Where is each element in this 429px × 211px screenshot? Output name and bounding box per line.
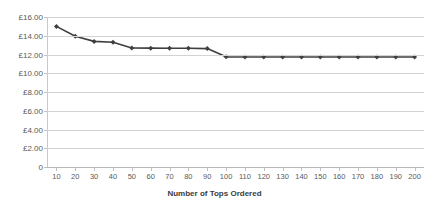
- x-axis-tick: [207, 168, 208, 171]
- y-axis-tick: [44, 167, 47, 168]
- gridline: [47, 55, 424, 56]
- y-axis-tick-label: £2.00: [23, 144, 43, 153]
- x-axis-tick-label: 90: [203, 172, 211, 181]
- x-axis-tick-label: 150: [314, 172, 327, 181]
- y-axis-tick-label: £14.00: [19, 31, 43, 40]
- x-axis-tick-label: 50: [128, 172, 136, 181]
- gridline: [47, 17, 424, 18]
- y-axis-tick-label: £8.00: [23, 88, 43, 97]
- gridline: [47, 111, 424, 112]
- x-axis-tick: [320, 168, 321, 171]
- y-axis-tick: [44, 36, 47, 37]
- y-axis-tick-label: £6.00: [23, 106, 43, 115]
- y-axis-tick-label: £16.00: [19, 13, 43, 22]
- y-axis-tick: [44, 17, 47, 18]
- x-axis-tick: [75, 168, 76, 171]
- x-axis-tick-label: 20: [71, 172, 79, 181]
- x-axis-tick: [358, 168, 359, 171]
- x-axis-tick: [415, 168, 416, 171]
- y-axis-tick: [44, 92, 47, 93]
- x-axis-tick: [301, 168, 302, 171]
- x-axis-tick-label: 10: [52, 172, 60, 181]
- y-axis-tick-label: £4.00: [23, 125, 43, 134]
- x-axis-tick: [245, 168, 246, 171]
- x-axis-tick-label: 200: [408, 172, 421, 181]
- x-axis-tick-label: 60: [147, 172, 155, 181]
- x-axis-tick: [283, 168, 284, 171]
- y-axis-tick-label: £10.00: [19, 69, 43, 78]
- x-axis-tick-label: 130: [276, 172, 289, 181]
- x-axis-tick: [170, 168, 171, 171]
- x-axis-tick-label: 40: [109, 172, 117, 181]
- x-axis-labels: 1020304050607080901001101201301401501601…: [47, 172, 424, 184]
- y-axis-tick-label: 0: [39, 163, 43, 172]
- x-axis-tick: [151, 168, 152, 171]
- x-axis-tick-label: 30: [90, 172, 98, 181]
- x-axis-tick: [264, 168, 265, 171]
- gridline: [47, 73, 424, 74]
- y-axis-tick: [44, 111, 47, 112]
- y-axis-labels: £16.00£14.00£12.00£10.00£8.00£6.00£4.00£…: [0, 17, 43, 167]
- x-axis-tick: [132, 168, 133, 171]
- x-axis-tick-label: 100: [220, 172, 233, 181]
- x-axis-tick-label: 80: [184, 172, 192, 181]
- x-axis-tick-label: 180: [371, 172, 384, 181]
- gridline: [47, 92, 424, 93]
- x-axis-title: Number of Tops Ordered: [0, 189, 429, 198]
- gridline: [47, 148, 424, 149]
- x-axis-tick-label: 70: [165, 172, 173, 181]
- plot-area: [47, 17, 424, 167]
- y-axis-tick-label: £12.00: [19, 50, 43, 59]
- gridline: [47, 130, 424, 131]
- gridlines: [47, 17, 424, 167]
- x-axis-tick: [56, 168, 57, 171]
- x-axis-tick: [226, 168, 227, 171]
- x-axis-tick: [113, 168, 114, 171]
- y-axis-tick: [44, 130, 47, 131]
- y-axis-tick: [44, 55, 47, 56]
- y-axis-tick: [44, 73, 47, 74]
- x-axis-tick-label: 190: [389, 172, 402, 181]
- gridline: [47, 36, 424, 37]
- x-axis-tick: [396, 168, 397, 171]
- x-axis-tick: [339, 168, 340, 171]
- x-axis-tick-label: 170: [352, 172, 365, 181]
- x-axis-tick-label: 120: [258, 172, 271, 181]
- x-axis-tick: [188, 168, 189, 171]
- x-axis-tick: [377, 168, 378, 171]
- y-axis-tick: [44, 148, 47, 149]
- x-axis-tick: [94, 168, 95, 171]
- x-axis-tick-label: 140: [295, 172, 308, 181]
- x-axis-tick-label: 160: [333, 172, 346, 181]
- x-axis-tick-label: 110: [239, 172, 251, 181]
